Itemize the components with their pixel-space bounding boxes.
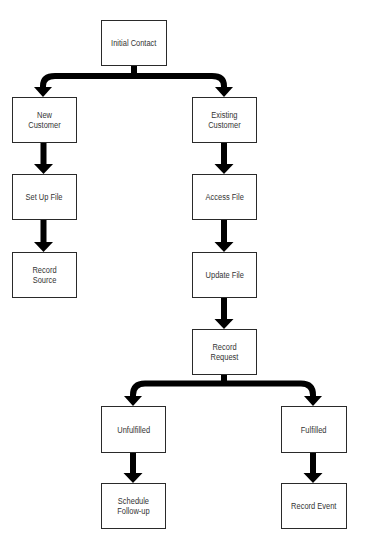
flowchart-canvas: Initial Contact New Customer Existing Cu…: [0, 0, 368, 549]
arrow-down-icon: [215, 87, 233, 97]
branch-connector-record-request: [124, 375, 322, 406]
arrow-access-file-to-update-file: [215, 220, 234, 252]
arrow-unfulfilled-to-schedule-follow-up: [124, 453, 143, 483]
node-set-up-file: Set Up File: [12, 174, 77, 220]
node-existing-customer: Existing Customer: [192, 97, 257, 143]
arrow-update-file-to-record-request: [215, 298, 234, 329]
node-label: Access File: [205, 192, 243, 202]
node-record-event: Record Event: [281, 483, 347, 529]
arrow-new-customer-to-set-up-file: [34, 143, 53, 174]
branch-connector-initial-contact: [34, 66, 233, 97]
arrow-down-icon: [215, 164, 234, 174]
node-label: Record Request: [200, 342, 248, 362]
arrow-fulfilled-to-record-event: [304, 453, 323, 483]
arrow-down-icon: [215, 242, 234, 252]
node-new-customer: New Customer: [12, 97, 77, 143]
arrow-set-up-file-to-record-source: [34, 220, 53, 252]
node-label: Existing Customer: [208, 110, 240, 130]
node-label: Record Event: [291, 501, 336, 511]
node-label: Record Source: [20, 265, 68, 285]
node-record-request: Record Request: [192, 329, 257, 375]
node-label: Schedule Follow-up: [117, 496, 149, 516]
node-label: New Customer: [20, 110, 68, 130]
node-fulfilled: Fulfilled: [281, 406, 347, 453]
node-schedule-follow-up: Schedule Follow-up: [101, 483, 166, 529]
node-label: Fulfilled: [301, 425, 327, 435]
node-unfulfilled: Unfulfilled: [101, 406, 166, 453]
arrow-down-icon: [304, 396, 322, 406]
node-label: Update File: [205, 270, 243, 280]
arrow-down-icon: [215, 319, 234, 329]
arrow-down-icon: [34, 87, 52, 97]
arrow-down-icon: [34, 164, 53, 174]
node-label: Unfulfilled: [117, 425, 150, 435]
arrow-down-icon: [124, 473, 143, 483]
node-label: Set Up File: [26, 192, 63, 202]
node-record-source: Record Source: [12, 252, 77, 298]
arrow-existing-customer-to-access-file: [215, 143, 234, 174]
node-label: Initial Contact: [111, 38, 156, 48]
arrow-down-icon: [304, 473, 323, 483]
arrow-down-icon: [124, 396, 142, 406]
node-access-file: Access File: [192, 174, 257, 220]
node-update-file: Update File: [192, 252, 257, 298]
node-initial-contact: Initial Contact: [101, 20, 167, 66]
arrow-down-icon: [34, 242, 53, 252]
